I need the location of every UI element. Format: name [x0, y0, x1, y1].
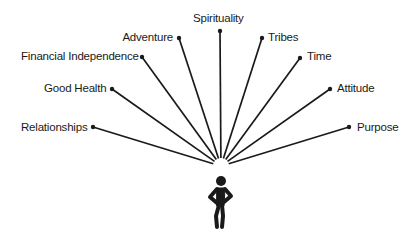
- spoke-dot-relationships: [91, 125, 95, 129]
- spoke-dot-spirituality: [218, 29, 222, 33]
- spoke-dot-tribes: [260, 36, 264, 40]
- spoke-line-financial-independence: [142, 57, 216, 160]
- label-good-health: Good Health: [44, 81, 106, 95]
- label-relationships: Relationships: [21, 120, 87, 134]
- spoke-dot-good-health: [110, 87, 114, 91]
- spoke-dot-purpose: [347, 125, 351, 129]
- spoke-dot-financial-independence: [140, 55, 144, 59]
- spoke-dot-adventure: [177, 36, 181, 40]
- person-figure-icon: [210, 176, 231, 227]
- label-tribes: Tribes: [268, 30, 298, 44]
- label-spirituality: Spirituality: [193, 11, 249, 25]
- label-time: Time: [307, 49, 332, 63]
- spoke-line-time: [226, 58, 300, 160]
- spoke-line-purpose: [229, 127, 349, 164]
- life-priorities-diagram: RelationshipsGood HealthFinancial Indepe…: [0, 0, 415, 240]
- label-adventure: Adventure: [122, 30, 173, 44]
- label-attitude: Attitude: [337, 81, 379, 95]
- spoke-dot-attitude: [328, 87, 332, 91]
- spoke-dot-time: [298, 56, 302, 60]
- spoke-line-relationships: [93, 127, 213, 164]
- spoke-line-spirituality: [220, 31, 221, 158]
- label-financial-independence: Financial Independence: [21, 49, 135, 63]
- label-purpose: Purpose: [357, 120, 399, 134]
